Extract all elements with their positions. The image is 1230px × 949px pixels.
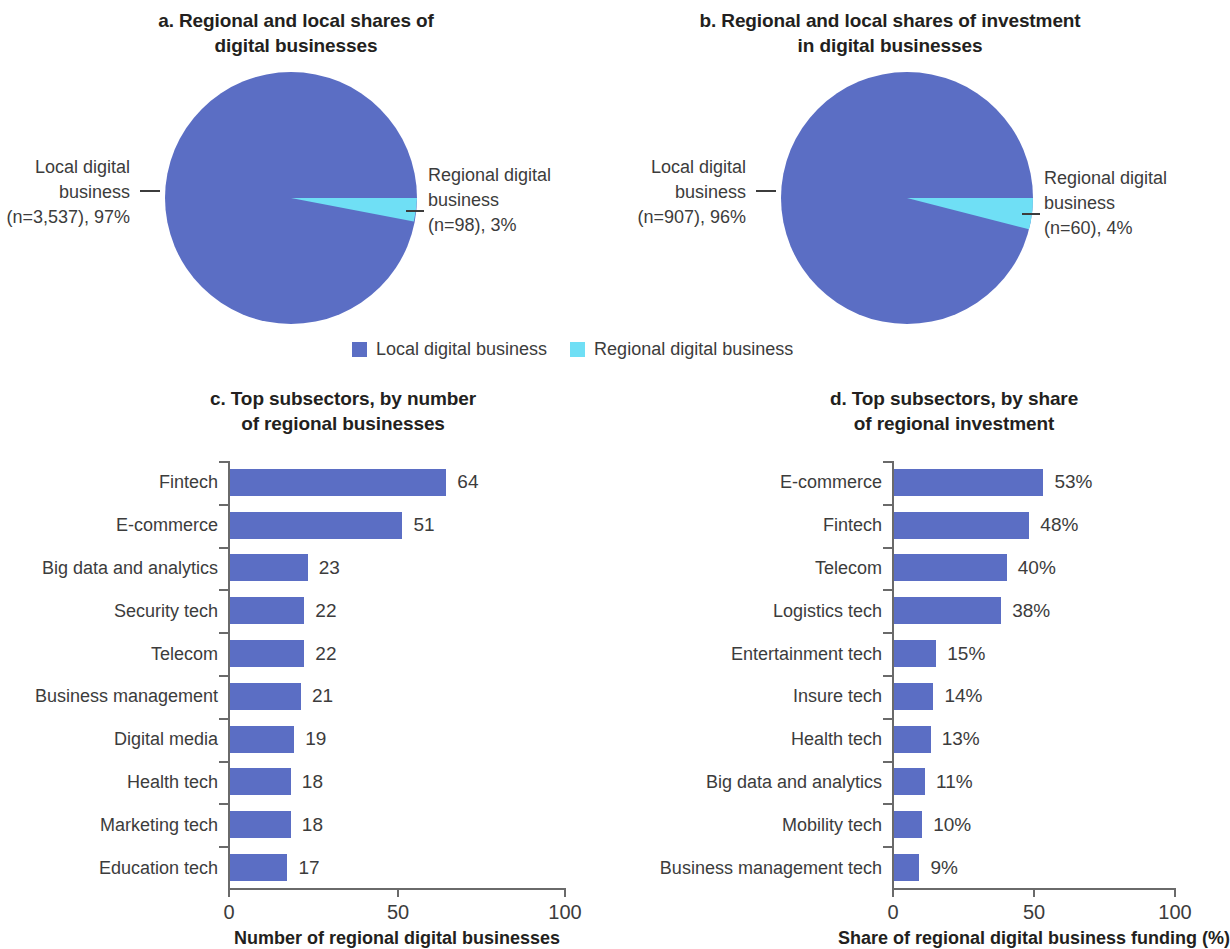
bar-category-label: Health tech (127, 772, 218, 792)
panel-b-title: b. Regional and local shares of investme… (640, 8, 1140, 58)
bar-row: Business management21 (230, 675, 568, 718)
bar-category-label: Telecom (151, 644, 218, 664)
panel-c-xtick-label-50: 50 (387, 901, 409, 924)
y-axis-tick (883, 632, 892, 634)
bar-row: Marketing tech18 (230, 803, 568, 846)
bar-value-label: 40% (1018, 558, 1056, 578)
y-axis-tick (219, 675, 228, 677)
bar-category-label: Security tech (114, 601, 218, 621)
panel-d-title: d. Top subsectors, by share of regional … (744, 386, 1164, 436)
bar-category-label: Marketing tech (100, 815, 218, 835)
panel-b-right-label-line2: business (1044, 191, 1167, 216)
bar (894, 811, 922, 838)
bar-row: Education tech17 (230, 846, 568, 889)
panel-b-title-line1: b. Regional and local shares of investme… (640, 8, 1140, 33)
panel-a-left-label-line3: (n=3,537), 97% (0, 205, 130, 230)
panel-c-axis-title: Number of regional digital businesses (234, 928, 560, 949)
panel-a-title-line2: digital businesses (96, 33, 496, 58)
panel-a-title: a. Regional and local shares of digital … (96, 8, 496, 58)
y-axis-tick (219, 761, 228, 763)
bar (230, 469, 446, 496)
panel-b-left-label-line2: business (446, 180, 746, 205)
bar-row: Big data and analytics11% (894, 761, 1178, 804)
panel-c-xtick-label-100: 100 (548, 901, 581, 924)
bar-value-label: 9% (930, 858, 957, 878)
panel-b-right-label-line1: Regional digital (1044, 166, 1167, 191)
bar-row: E-commerce51 (230, 504, 568, 547)
bar (894, 640, 936, 667)
bar-row: Digital media19 (230, 718, 568, 761)
bar-value-label: 11% (936, 772, 973, 792)
y-axis-tick (883, 718, 892, 720)
panel-d-title-line2: of regional investment (744, 411, 1164, 436)
bar (230, 683, 301, 710)
bar-row: Mobility tech10% (894, 803, 1178, 846)
bar-category-label: Insure tech (793, 686, 882, 706)
bar-category-label: Fintech (823, 515, 882, 535)
bar-value-label: 38% (1012, 601, 1050, 621)
panel-d-xtick-label-100: 100 (1158, 901, 1191, 924)
bar-category-label: E-commerce (780, 472, 882, 492)
bar-category-label: Business management (35, 686, 218, 706)
bar (894, 469, 1043, 496)
bar-row: Telecom22 (230, 632, 568, 675)
panel-c-xtick-100 (564, 888, 566, 897)
pie-chart-b (780, 71, 1034, 325)
bar (894, 554, 1007, 581)
bar (894, 726, 931, 753)
bar (230, 640, 304, 667)
bar (230, 768, 291, 795)
y-axis-tick (219, 803, 228, 805)
y-axis-tick (883, 504, 892, 506)
bar-value-label: 17 (298, 858, 319, 878)
y-axis-tick (219, 461, 228, 463)
bar-value-label: 21 (312, 686, 333, 706)
legend-label-local: Local digital business (376, 339, 547, 360)
bar (230, 512, 402, 539)
bar-category-label: Telecom (815, 558, 882, 578)
bar-value-label: 23 (319, 558, 340, 578)
panel-d-axis-title: Share of regional digital business fundi… (838, 928, 1230, 949)
bar-row: Logistics tech38% (894, 589, 1178, 632)
bar-value-label: 51 (413, 515, 434, 535)
bar (894, 768, 925, 795)
bar-value-label: 19 (305, 729, 326, 749)
bar-row: Insure tech14% (894, 675, 1178, 718)
y-axis-tick (219, 632, 228, 634)
bar-row: Health tech13% (894, 718, 1178, 761)
bar-category-label: Entertainment tech (731, 644, 882, 664)
panel-a-title-line1: a. Regional and local shares of (96, 8, 496, 33)
bar (230, 726, 294, 753)
bar-row: Health tech18 (230, 761, 568, 804)
bar-value-label: 13% (942, 729, 980, 749)
y-axis-tick (883, 846, 892, 848)
bar-category-label: Logistics tech (773, 601, 882, 621)
bar-category-label: Digital media (114, 729, 218, 749)
bar-category-label: Big data and analytics (42, 558, 218, 578)
y-axis-tick (883, 547, 892, 549)
panel-a-left-label-line2: business (0, 180, 130, 205)
panel-d-title-line1: d. Top subsectors, by share (744, 386, 1164, 411)
bar-row: E-commerce53% (894, 461, 1178, 504)
panel-b-title-line2: in digital businesses (640, 33, 1140, 58)
panel-c-xtick-label-0: 0 (223, 901, 234, 924)
bar-category-label: Big data and analytics (706, 772, 882, 792)
bar-row: Telecom40% (894, 547, 1178, 590)
bar-row: Fintech64 (230, 461, 568, 504)
legend-swatch-regional (570, 342, 585, 357)
legend-label-regional: Regional digital business (594, 339, 793, 360)
bar-category-label: Fintech (159, 472, 218, 492)
bar-value-label: 22 (315, 644, 336, 664)
bar (230, 811, 291, 838)
y-axis-tick (219, 718, 228, 720)
panel-c-title: c. Top subsectors, by number of regional… (138, 386, 548, 436)
panel-d-xtick-50 (1033, 888, 1035, 897)
bar-value-label: 18 (302, 772, 323, 792)
y-axis-tick (883, 589, 892, 591)
bar-value-label: 53% (1054, 472, 1092, 492)
bar-category-label: E-commerce (116, 515, 218, 535)
bar (230, 597, 304, 624)
y-axis-tick (883, 461, 892, 463)
bar-row: Business management tech9% (894, 846, 1178, 889)
bar (894, 683, 933, 710)
